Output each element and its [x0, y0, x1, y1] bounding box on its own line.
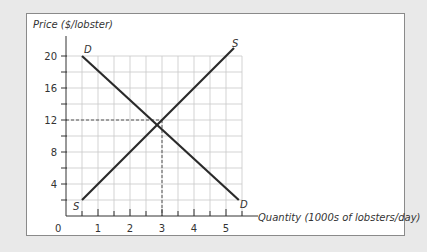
x-tick-label: 1 [95, 223, 101, 234]
supply-curve [82, 48, 234, 200]
y-tick-label: 8 [51, 147, 57, 158]
y-tick-label: 12 [44, 115, 57, 126]
curves [82, 48, 239, 200]
demand-label-top: D [84, 44, 92, 55]
origin-label: 0 [55, 223, 61, 234]
demand-curve [82, 56, 239, 200]
y-tick-label: 20 [44, 51, 57, 62]
x-axis-title: Quantity (1000s of lobsters/day) [258, 212, 420, 223]
supply-label-top: S [232, 38, 239, 49]
y-axis-title: Price ($/lobster) [33, 19, 113, 30]
y-tick-label: 4 [51, 179, 57, 190]
x-tick-label: 5 [223, 223, 229, 234]
supply-demand-chart: 1234548121620 Price ($/lobster) Quantity… [0, 0, 427, 252]
demand-label-bottom: D [240, 199, 248, 210]
grid [66, 56, 242, 216]
axis-labels: 1234548121620 [44, 51, 229, 234]
x-tick-label: 4 [191, 223, 197, 234]
supply-label-bottom: S [73, 201, 80, 212]
x-tick-label: 3 [159, 223, 165, 234]
y-tick-label: 16 [44, 83, 57, 94]
x-tick-label: 2 [127, 223, 133, 234]
